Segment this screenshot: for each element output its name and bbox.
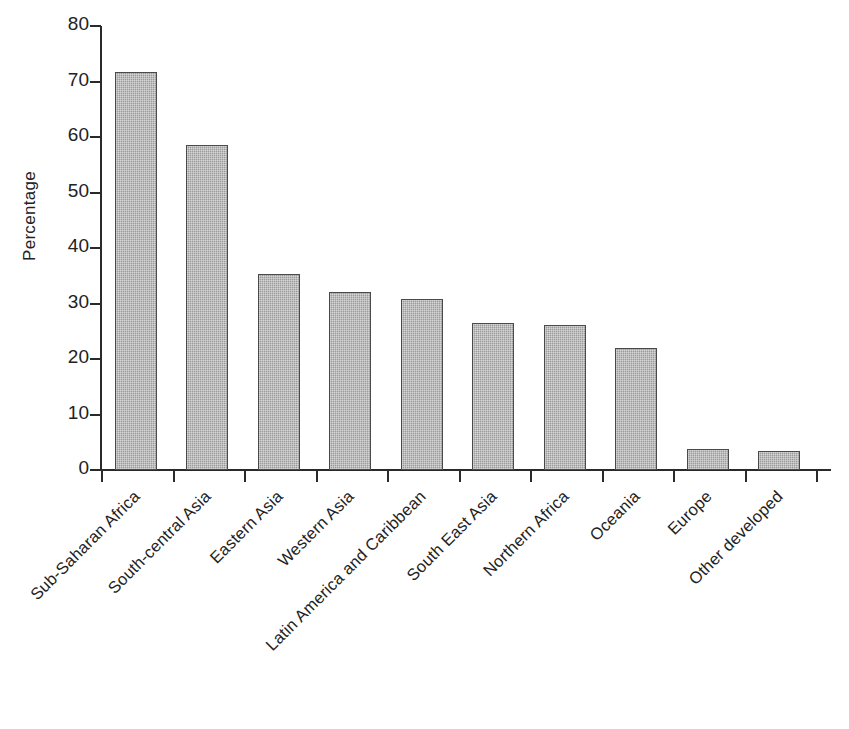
bar: [186, 145, 228, 470]
y-tick-mark: [90, 25, 101, 27]
bar: [544, 325, 586, 470]
y-tick-mark: [90, 81, 101, 83]
y-tick-mark: [90, 247, 101, 249]
y-tick-mark: [90, 303, 101, 305]
y-tick-label: 0: [49, 457, 89, 479]
x-tick-mark: [244, 470, 246, 482]
y-tick-mark: [90, 192, 101, 194]
y-tick-mark: [90, 358, 101, 360]
y-tick-label: 60: [49, 124, 89, 146]
bar: [401, 299, 443, 470]
y-tick-label: 40: [49, 235, 89, 257]
bar: [115, 72, 157, 470]
bar: [258, 274, 300, 470]
y-tick-label: 70: [49, 69, 89, 91]
x-tick-mark: [101, 470, 103, 482]
y-tick-mark: [90, 414, 101, 416]
x-tick-mark: [745, 470, 747, 482]
x-tick-mark: [459, 470, 461, 482]
bar: [615, 348, 657, 470]
y-tick-label: 80: [49, 13, 89, 35]
y-axis-title: Percentage: [20, 146, 40, 286]
y-tick-mark: [90, 136, 101, 138]
bar: [472, 323, 514, 470]
y-tick-mark: [90, 469, 101, 471]
x-tick-mark: [602, 470, 604, 482]
x-tick-mark: [816, 470, 818, 482]
bar-chart: Percentage 01020304050607080 Sub-Saharan…: [0, 0, 849, 729]
y-tick-label: 20: [49, 346, 89, 368]
x-tick-mark: [673, 470, 675, 482]
x-tick-mark: [387, 470, 389, 482]
bar: [687, 449, 729, 470]
bar: [758, 451, 800, 470]
x-tick-mark: [316, 470, 318, 482]
x-tick-mark: [530, 470, 532, 482]
x-tick-mark: [173, 470, 175, 482]
y-tick-label: 50: [49, 180, 89, 202]
y-tick-label: 10: [49, 402, 89, 424]
bar: [329, 292, 371, 470]
y-tick-label: 30: [49, 291, 89, 313]
